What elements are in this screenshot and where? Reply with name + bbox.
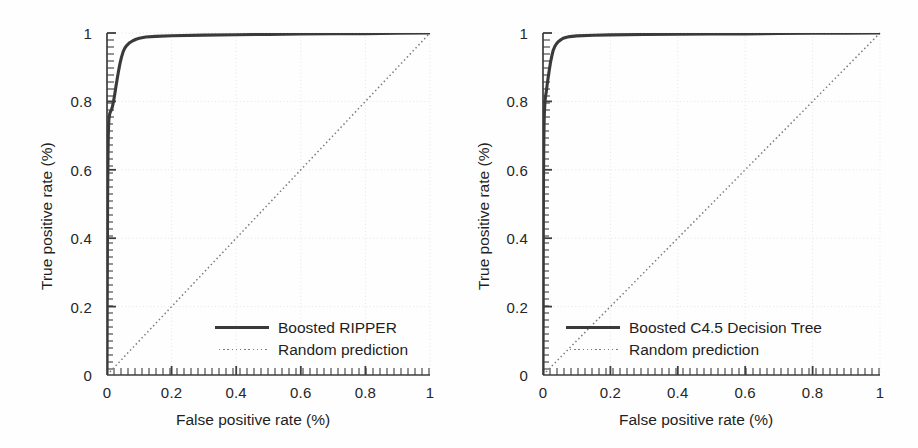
dotted-line-icon [566,343,620,357]
y-tick-label: 1 [494,25,528,42]
legend-label: Random prediction [629,342,759,358]
x-tick-label: 1 [426,384,435,401]
y-tick-label: 0.8 [494,93,528,110]
y-tick-label: 0.6 [58,161,92,178]
legend-right: Boosted C4.5 Decision Tree Random predic… [566,318,822,362]
y-tick-label: 0.8 [58,93,92,110]
y-tick-label: 0.2 [494,298,528,315]
y-tick-label: 0.2 [58,298,92,315]
x-tick-label: 0.6 [290,384,311,401]
roc-panel-left: 1 0.8 0.6 0.4 0.2 0 0 0.2 0.4 0.6 0.8 1 … [0,0,459,448]
legend-item[interactable]: Random prediction [566,340,822,360]
x-axis-title: False positive rate (%) [619,411,773,429]
legend-label: Boosted RIPPER [278,320,397,336]
x-tick-label: 0.4 [225,384,246,401]
x-tick-label: 0.4 [667,384,688,401]
x-axis-title: False positive rate (%) [176,411,330,429]
x-minor-ticks-right [550,368,879,375]
x-tick-label: 0.6 [734,384,755,401]
x-tick-label: 0 [103,384,112,401]
legend-item[interactable]: Random prediction [215,340,408,360]
solid-line-icon [215,321,269,335]
x-minor-ticks-left [114,368,429,375]
legend-left: Boosted RIPPER Random prediction [215,318,408,362]
roc-panel-right: 1 0.8 0.6 0.4 0.2 0 0 0.2 0.4 0.6 0.8 1 … [459,0,918,448]
x-tick-label: 0.8 [802,384,823,401]
legend-item[interactable]: Boosted C4.5 Decision Tree [566,318,822,338]
y-tick-label: 1 [58,25,92,42]
legend-label: Boosted C4.5 Decision Tree [629,320,822,336]
y-tick-label: 0.4 [58,230,92,247]
y-axis-title: True positive rate (%) [475,142,493,290]
x-tick-label: 0 [539,384,548,401]
dotted-line-icon [215,343,269,357]
y-tick-label: 0 [58,367,92,384]
y-tick-label: 0 [494,367,528,384]
x-tick-label: 0.2 [161,384,182,401]
legend-item[interactable]: Boosted RIPPER [215,318,408,338]
y-tick-label: 0.4 [494,230,528,247]
y-axis-title: True positive rate (%) [38,142,56,290]
x-tick-label: 1 [876,384,885,401]
y-tick-label: 0.6 [494,161,528,178]
legend-label: Random prediction [278,342,408,358]
roc-figure: 1 0.8 0.6 0.4 0.2 0 0 0.2 0.4 0.6 0.8 1 … [0,0,918,448]
solid-line-icon [566,321,620,335]
x-tick-label: 0.2 [600,384,621,401]
x-tick-label: 0.8 [355,384,376,401]
